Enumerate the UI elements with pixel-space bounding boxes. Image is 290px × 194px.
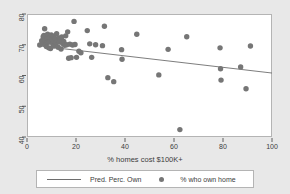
- regression-line: [40, 46, 272, 73]
- scatter-point: [89, 55, 94, 60]
- scatter-point: [218, 77, 223, 82]
- scatter-point: [71, 19, 76, 24]
- scatter-point: [184, 34, 189, 39]
- scatter-point: [248, 43, 253, 48]
- scatter-point: [105, 75, 110, 80]
- scatter-point: [156, 72, 161, 77]
- y-tick-label: 50: [18, 106, 25, 128]
- legend-marker-swatch: [159, 177, 164, 182]
- scatter-point: [218, 66, 223, 71]
- x-tick-label: 100: [260, 143, 284, 150]
- scatter-point: [87, 41, 92, 46]
- scatter-point: [217, 45, 222, 50]
- scatter-point: [100, 43, 105, 48]
- scatter-point: [102, 24, 107, 29]
- scatter-point: [177, 127, 182, 132]
- legend-line-swatch: [47, 179, 81, 180]
- scatter-points: [37, 19, 253, 133]
- x-tick-label: 20: [64, 143, 88, 150]
- scatter-point: [85, 28, 90, 33]
- legend-label-pred-perc-own: Pred. Perc. Own: [90, 176, 141, 183]
- x-tick-label: 0: [15, 143, 39, 150]
- y-tick-label: 70: [18, 44, 25, 66]
- scatter-point: [93, 42, 98, 47]
- scatter-point: [243, 86, 248, 91]
- scatter-point: [134, 32, 139, 37]
- scatter-point: [119, 57, 124, 62]
- scatter-point: [78, 50, 83, 55]
- x-axis-title: % homes cost $100K+: [0, 155, 290, 164]
- legend-label-percent-who-own-home: % who own home: [180, 176, 235, 183]
- x-tick-label: 80: [211, 143, 235, 150]
- chart-legend: Pred. Perc. Own % who own home: [36, 170, 254, 188]
- scatter-point: [42, 26, 47, 31]
- x-tick-label: 60: [162, 143, 186, 150]
- axis-tick-marks: [22, 14, 272, 142]
- scatter-point: [65, 29, 70, 34]
- scatter-point: [111, 79, 116, 84]
- scatter-point: [68, 55, 73, 60]
- legend-entry-percent-who-own-home: % who own home: [141, 171, 235, 187]
- plot-canvas: [0, 0, 290, 194]
- scatter-point: [72, 42, 77, 47]
- y-tick-label: 80: [18, 14, 25, 36]
- scatter-point: [238, 64, 243, 69]
- legend-entry-pred-perc-own: Pred. Perc. Own: [37, 171, 141, 187]
- y-tick-label: 60: [18, 75, 25, 97]
- scatter-point: [74, 55, 79, 60]
- chart-figure: 4050607080 020406080100 % homes cost $10…: [0, 0, 290, 194]
- scatter-point: [165, 47, 170, 52]
- scatter-point: [119, 47, 124, 52]
- x-tick-label: 40: [113, 143, 137, 150]
